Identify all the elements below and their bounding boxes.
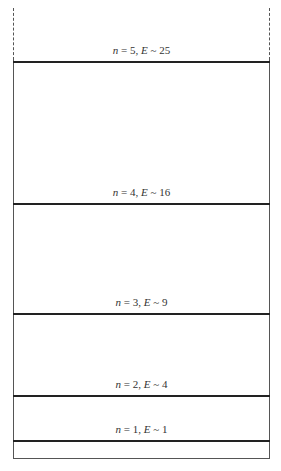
n-symbol: n: [116, 378, 122, 390]
well-wall-right: [269, 60, 270, 459]
e-value: 16: [159, 186, 170, 198]
level-label-4: n = 4, E ~ 16: [13, 186, 270, 198]
e-value: 25: [159, 44, 170, 56]
energy-level-2: [13, 395, 270, 397]
e-symbol: E: [144, 378, 151, 390]
level-label-1: n = 1, E ~ 1: [13, 423, 270, 435]
energy-level-4: [13, 203, 270, 205]
e-symbol: E: [141, 186, 148, 198]
e-symbol: E: [144, 296, 151, 308]
e-value: 1: [162, 423, 168, 435]
n-value: 4: [130, 186, 136, 198]
well-bottom: [13, 458, 270, 459]
level-label-5: n = 5, E ~ 25: [13, 44, 270, 56]
well-wall-left: [13, 60, 14, 459]
e-symbol: E: [144, 423, 151, 435]
e-symbol: E: [141, 44, 148, 56]
n-value: 1: [133, 423, 139, 435]
energy-level-1: [13, 440, 270, 442]
n-symbol: n: [116, 296, 122, 308]
n-symbol: n: [116, 423, 122, 435]
level-label-2: n = 2, E ~ 4: [13, 378, 270, 390]
n-value: 2: [133, 378, 139, 390]
energy-level-5: [13, 61, 270, 63]
n-symbol: n: [113, 186, 119, 198]
e-value: 9: [162, 296, 168, 308]
energy-level-3: [13, 313, 270, 315]
n-symbol: n: [113, 44, 119, 56]
level-label-3: n = 3, E ~ 9: [13, 296, 270, 308]
e-value: 4: [162, 378, 168, 390]
n-value: 3: [133, 296, 139, 308]
n-value: 5: [130, 44, 136, 56]
